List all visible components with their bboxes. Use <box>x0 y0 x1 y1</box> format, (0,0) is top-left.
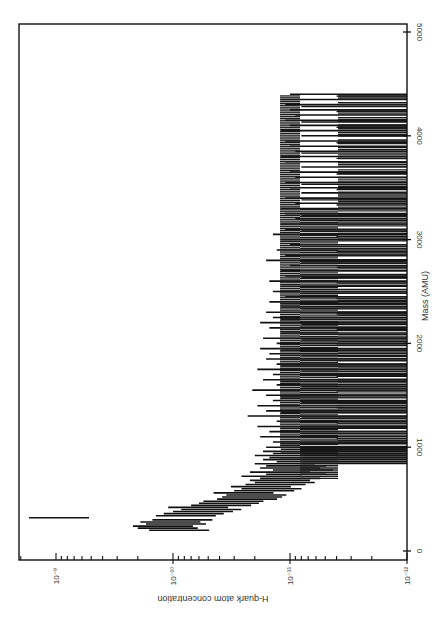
mass-tick-label: 3000 <box>415 231 424 249</box>
mass-tick-label: 5000 <box>415 23 424 41</box>
concentration-axis: 10⁻⁹10⁻¹⁰10⁻¹¹10⁻¹² <box>21 553 412 585</box>
mass-tick-label: 4000 <box>415 127 424 145</box>
mass-tick-label: 2000 <box>415 335 424 353</box>
mass-tick-label: 1000 <box>415 438 424 456</box>
mass-tick-label: 0 <box>415 549 424 554</box>
data-bars <box>29 94 407 530</box>
chart: 010002000300040005000 10⁻⁹10⁻¹⁰10⁻¹¹10⁻¹… <box>0 0 441 620</box>
concentration-tick-label: 10⁻¹⁰ <box>169 567 178 586</box>
concentration-tick-label: 10⁻¹¹ <box>286 567 295 586</box>
concentration-tick-label: 10⁻¹² <box>403 567 412 586</box>
mass-axis-title: Mass (AMU) <box>420 271 430 321</box>
concentration-axis-title: H-quark atom concentration <box>157 594 268 604</box>
concentration-tick-label: 10⁻⁹ <box>52 568 61 584</box>
